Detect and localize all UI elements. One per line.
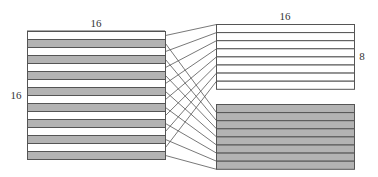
right-top-row <box>217 81 355 89</box>
left-row-white <box>28 80 166 88</box>
connector-line <box>166 108 217 146</box>
left-row-gray <box>28 152 166 160</box>
left-block <box>28 32 166 160</box>
left-row-gray <box>28 40 166 48</box>
connector-line <box>166 81 217 147</box>
right-top-row <box>217 25 355 33</box>
right-top-row <box>217 49 355 57</box>
right-top-row <box>217 65 355 73</box>
right-top-row <box>217 73 355 81</box>
left-row-white <box>28 144 166 152</box>
connector-line <box>166 65 217 116</box>
connector-lines <box>166 25 217 170</box>
right-bottom-block <box>217 105 355 170</box>
connector-line <box>166 25 217 36</box>
left-row-gray <box>28 72 166 80</box>
right-top-row <box>217 57 355 65</box>
left-row-gray <box>28 104 166 112</box>
right-bottom-row <box>217 161 355 169</box>
left-row-gray <box>28 56 166 64</box>
left-row-gray <box>28 136 166 144</box>
left-row-white <box>28 64 166 72</box>
left-row-white <box>28 128 166 136</box>
left-side-label: 16 <box>11 89 23 101</box>
left-row-gray <box>28 120 166 128</box>
right-bottom-row <box>217 137 355 145</box>
left-row-white <box>28 48 166 56</box>
right-bottom-row <box>217 153 355 161</box>
right-bottom-row <box>217 105 355 113</box>
right-bottom-row <box>217 121 355 129</box>
left-top-label: 16 <box>91 17 103 29</box>
left-row-gray <box>28 88 166 96</box>
connector-line <box>166 124 217 154</box>
interleave-diagram: 16 16 16 8 <box>0 0 378 177</box>
left-row-white <box>28 96 166 104</box>
right-bottom-row <box>217 113 355 121</box>
right-bottom-row <box>217 129 355 137</box>
right-top-row <box>217 33 355 41</box>
right-top-row <box>217 41 355 49</box>
left-row-white <box>28 112 166 120</box>
connector-line <box>166 33 217 52</box>
right-side-label: 8 <box>359 50 365 62</box>
right-top-label: 16 <box>280 10 292 22</box>
left-row-white <box>28 32 166 40</box>
right-top-block <box>217 25 355 90</box>
right-bottom-row <box>217 145 355 153</box>
